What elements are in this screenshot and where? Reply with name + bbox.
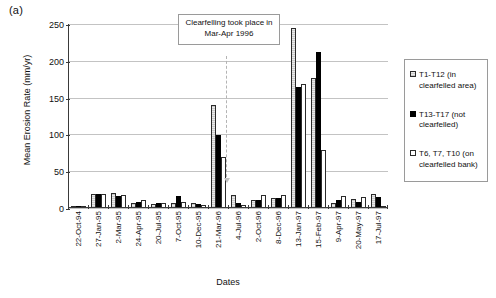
y-tick-label-200: 200: [49, 57, 69, 67]
x-tick-label: 15-Feb-97: [314, 211, 323, 248]
x-tick-mark: [288, 205, 289, 209]
legend-item: T1-T12 (in clearfelled area): [410, 70, 483, 92]
x-tick-mark: [368, 205, 369, 209]
x-tick-label: 8-Dec-96: [274, 211, 283, 244]
x-tick-mark: [328, 205, 329, 209]
legend-label: T6, T7, T10 (on clearfelled bank): [419, 149, 483, 171]
bar: [241, 205, 246, 207]
x-tick-mark: [88, 205, 89, 209]
y-tick-label-150: 150: [49, 94, 69, 104]
x-tick-mark: [268, 205, 269, 209]
x-tick-mark: [208, 205, 209, 209]
panel-label: (a): [9, 4, 23, 16]
bar: [381, 206, 386, 207]
bar-group: [248, 24, 268, 207]
x-tick-mark: [128, 205, 129, 209]
y-tick-label-100: 100: [49, 130, 69, 140]
x-tick-label: 22-Oct-94: [74, 211, 83, 247]
y-tick-label-250: 250: [49, 20, 69, 30]
x-tick-label: 20-Jul-95: [154, 211, 163, 244]
bar-group: [109, 24, 129, 207]
x-tick: 20-Jul-95: [148, 209, 168, 273]
x-tick-mark: [168, 205, 169, 209]
x-tick-mark: [308, 205, 309, 209]
x-tick-label: 27-Jan-95: [94, 211, 103, 247]
x-tick-mark: [248, 205, 249, 209]
x-axis-tick-labels: 22-Oct-9427-Jan-952-Mar-9524-Apr-9520-Ju…: [68, 209, 388, 273]
bar: [341, 196, 346, 207]
bar-group: [189, 24, 209, 207]
x-tick-label: 20-May-97: [354, 211, 363, 249]
bar: [281, 195, 286, 207]
x-tick-label: 13-Jan-97: [294, 211, 303, 247]
bar-group: [169, 24, 189, 207]
clearfelling-annotation: Clearfelling took place in Mar-Apr 1996: [178, 14, 280, 45]
x-tick: 22-Oct-94: [68, 209, 88, 273]
x-tick-label: 2-Oct-96: [254, 211, 263, 242]
bar-group: [69, 24, 89, 207]
bar-group: [229, 24, 249, 207]
x-tick: 20-May-97: [348, 209, 368, 273]
x-tick: 7-Oct-95: [168, 209, 188, 273]
bar: [141, 200, 146, 207]
x-tick-label: 2-Mar-95: [114, 211, 123, 243]
bar: [181, 202, 186, 207]
x-tick-label: 17-Jul-97: [374, 211, 383, 244]
x-tick-label: 21-Mar-96: [214, 211, 223, 248]
legend-swatch-icon: [410, 150, 416, 156]
x-tick: 13-Jan-97: [288, 209, 308, 273]
bar: [81, 206, 86, 207]
x-tick: 24-Apr-95: [128, 209, 148, 273]
x-tick-mark: [68, 205, 69, 209]
y-tick-label-50: 50: [54, 167, 69, 177]
bar: [161, 203, 166, 207]
x-tick: 21-Mar-96: [208, 209, 228, 273]
bar: [261, 195, 266, 207]
bar-group: [288, 24, 308, 207]
x-tick-label: 4-Jul-96: [234, 211, 243, 240]
chart-legend: T1-T12 (in clearfelled area)T13-T17 (not…: [404, 59, 488, 182]
x-tick: 4-Jul-96: [228, 209, 248, 273]
x-tick: 8-Dec-96: [268, 209, 288, 273]
x-tick: 2-Mar-95: [108, 209, 128, 273]
legend-item: T13-T17 (not clearfelled): [410, 110, 483, 132]
x-tick-label: 24-Apr-95: [134, 211, 143, 247]
bar-group: [149, 24, 169, 207]
x-tick: 17-Jul-97: [368, 209, 388, 273]
bar: [361, 197, 366, 207]
bar-group: [328, 24, 348, 207]
legend-label: T1-T12 (in clearfelled area): [419, 70, 483, 92]
bar-group: [348, 24, 368, 207]
y-axis-title: Mean Erosion Rate (mm/yr): [22, 25, 32, 195]
clearfelling-marker-line: [226, 56, 227, 182]
bar-group: [129, 24, 149, 207]
bar-group: [308, 24, 328, 207]
bar: [101, 194, 106, 207]
bar-group: [368, 24, 388, 207]
legend-swatch-icon: [410, 71, 416, 77]
bar: [301, 84, 306, 207]
x-tick-mark: [348, 205, 349, 209]
x-tick-label: 7-Oct-95: [174, 211, 183, 242]
x-axis-title: Dates: [68, 277, 388, 287]
x-tick: 10-Dec-95: [188, 209, 208, 273]
x-tick: 15-Feb-97: [308, 209, 328, 273]
x-tick-mark: [148, 205, 149, 209]
x-tick-mark: [108, 205, 109, 209]
x-tick: 27-Jan-95: [88, 209, 108, 273]
x-tick-label: 10-Dec-95: [194, 211, 203, 248]
x-tick-mark: [188, 205, 189, 209]
bar: [121, 195, 126, 207]
bar-group: [268, 24, 288, 207]
bar: [201, 205, 206, 207]
legend-label: T13-T17 (not clearfelled): [419, 110, 483, 132]
bar-group: [89, 24, 109, 207]
x-tick: 9-Apr-97: [328, 209, 348, 273]
x-tick-mark: [387, 205, 388, 209]
chart-figure: (a) Mean Erosion Rate (mm/yr) 0501001502…: [0, 0, 496, 298]
x-tick: 2-Oct-96: [248, 209, 268, 273]
bar: [321, 150, 326, 207]
legend-item: T6, T7, T10 (on clearfelled bank): [410, 149, 483, 171]
x-tick-mark: [228, 205, 229, 209]
legend-swatch-icon: [410, 111, 416, 117]
